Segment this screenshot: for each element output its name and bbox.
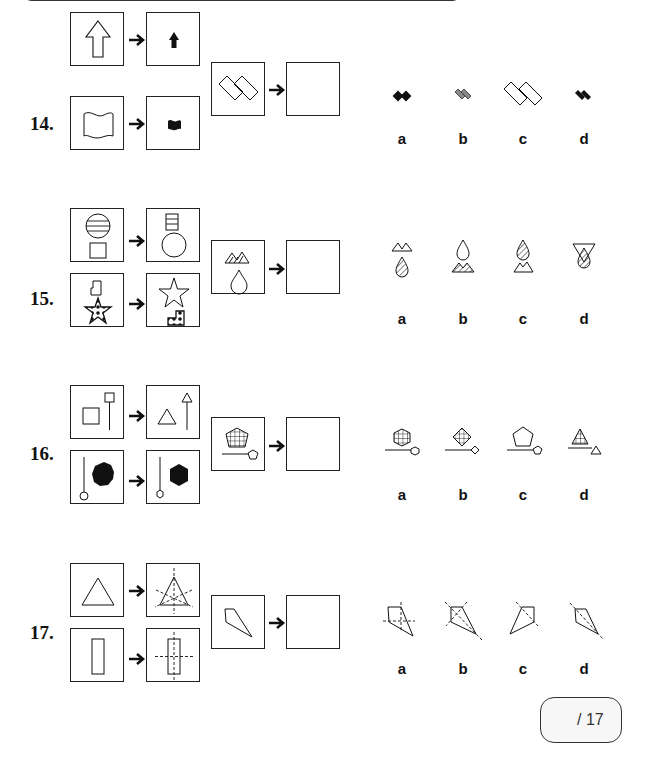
triangle-with-pin-icon bbox=[147, 386, 201, 440]
star-and-dotted-L-icon bbox=[147, 274, 201, 328]
example-output-square-circle bbox=[146, 208, 200, 262]
example-input-octagon-pin bbox=[70, 450, 124, 504]
black-rectangles-icon bbox=[562, 70, 612, 120]
option-d[interactable] bbox=[562, 420, 612, 470]
query-box bbox=[211, 417, 265, 471]
outline-arrow-icon bbox=[71, 13, 125, 67]
arrow-right-icon bbox=[268, 616, 286, 630]
answer-box-empty[interactable] bbox=[286, 595, 340, 649]
query-box bbox=[211, 240, 265, 294]
arrow-right-icon bbox=[268, 439, 286, 453]
answer-box-empty[interactable] bbox=[286, 417, 340, 471]
gridded-pentagon-with-pentagon-pin-icon bbox=[212, 418, 266, 472]
option-b[interactable] bbox=[441, 70, 491, 120]
inverted-triangle-with-striped-drop-icon bbox=[562, 238, 612, 288]
black-hexagon-with-hexagon-pin-icon bbox=[147, 451, 201, 505]
striped-square-and-circle-icon bbox=[147, 209, 201, 263]
outline-flag-icon bbox=[71, 97, 125, 151]
arrow-right-icon bbox=[128, 297, 146, 311]
option-label: d bbox=[574, 130, 594, 147]
option-label: a bbox=[392, 130, 412, 147]
top-frame bbox=[22, 0, 462, 1]
option-b[interactable] bbox=[441, 238, 491, 288]
option-c[interactable] bbox=[501, 420, 551, 470]
arrow-right-icon bbox=[128, 409, 146, 423]
option-label: a bbox=[392, 486, 412, 503]
square-with-pin-icon bbox=[71, 386, 125, 440]
option-a[interactable] bbox=[380, 420, 430, 470]
arrow-right-icon bbox=[128, 33, 146, 47]
triangle-icon bbox=[71, 564, 125, 618]
example-input-circle-square bbox=[70, 208, 124, 262]
arrow-right-icon bbox=[268, 83, 286, 97]
option-a[interactable] bbox=[380, 238, 430, 288]
question-number: 17. bbox=[30, 622, 54, 644]
query-box bbox=[211, 62, 265, 116]
arrow-right-icon bbox=[128, 652, 146, 666]
L-shape-and-dotted-star-icon bbox=[71, 274, 125, 328]
option-label: b bbox=[453, 486, 473, 503]
option-label: c bbox=[513, 660, 533, 677]
option-label: a bbox=[392, 310, 412, 327]
striped-drop-above-mountains-icon bbox=[501, 238, 551, 288]
answer-box-empty[interactable] bbox=[286, 62, 340, 116]
example-input-L-star bbox=[70, 273, 124, 327]
black-rectangles-icon bbox=[380, 70, 430, 120]
option-label: d bbox=[574, 660, 594, 677]
option-c[interactable] bbox=[501, 238, 551, 288]
option-label: a bbox=[392, 660, 412, 677]
option-b[interactable] bbox=[441, 598, 491, 648]
option-a[interactable] bbox=[380, 598, 430, 648]
kite-quadrilateral-icon bbox=[212, 596, 266, 650]
black-octagon-with-circle-pin-icon bbox=[71, 451, 125, 505]
mountains-and-drop-icon bbox=[212, 241, 266, 295]
grey-rectangles-icon bbox=[441, 70, 491, 120]
example-output-triangle-axes bbox=[146, 563, 200, 617]
example-output-black-arrow bbox=[146, 12, 200, 66]
arrow-right-icon bbox=[128, 117, 146, 131]
mountains-above-striped-drop-icon bbox=[380, 238, 430, 288]
option-label: c bbox=[513, 130, 533, 147]
rectangle-symmetry-axes-icon bbox=[147, 629, 201, 683]
kite-with-cross-axes-icon bbox=[380, 598, 430, 648]
kite-with-one-diagonal-axis-icon bbox=[562, 598, 612, 648]
example-output-star-L bbox=[146, 273, 200, 327]
score-box[interactable]: / 17 bbox=[540, 697, 622, 743]
question-number: 14. bbox=[30, 113, 54, 135]
option-label: b bbox=[453, 660, 473, 677]
arrow-right-icon bbox=[128, 584, 146, 598]
black-flag-icon bbox=[147, 97, 201, 151]
drop-above-striped-mountains-icon bbox=[441, 238, 491, 288]
query-box bbox=[211, 595, 265, 649]
score-label: / 17 bbox=[577, 711, 604, 729]
option-d[interactable] bbox=[562, 70, 612, 120]
option-d[interactable] bbox=[562, 238, 612, 288]
example-input-triangle bbox=[70, 563, 124, 617]
gridded-triangle-with-triangle-pin-icon bbox=[562, 420, 612, 470]
example-input-flag bbox=[70, 96, 124, 150]
option-b[interactable] bbox=[441, 420, 491, 470]
pentagon-with-pentagon-pin-icon bbox=[501, 420, 551, 470]
arrow-right-icon bbox=[268, 262, 286, 276]
option-a[interactable] bbox=[380, 70, 430, 120]
option-label: c bbox=[513, 310, 533, 327]
example-output-triangle-pin bbox=[146, 385, 200, 439]
example-input-rectangle bbox=[70, 628, 124, 682]
striped-circle-and-square-icon bbox=[71, 209, 125, 263]
option-label: c bbox=[513, 486, 533, 503]
question-number: 15. bbox=[30, 288, 54, 310]
gridded-diamond-with-diamond-pin-icon bbox=[441, 420, 491, 470]
option-label: d bbox=[574, 486, 594, 503]
overlapping-rectangles-icon bbox=[212, 63, 266, 117]
kite-with-two-diagonal-axes-icon bbox=[441, 598, 491, 648]
example-input-square-pin bbox=[70, 385, 124, 439]
black-arrow-icon bbox=[147, 13, 201, 67]
option-label: b bbox=[453, 310, 473, 327]
option-c[interactable] bbox=[501, 598, 551, 648]
gridded-hexagon-with-hexagon-pin-icon bbox=[380, 420, 430, 470]
arrow-right-icon bbox=[128, 234, 146, 248]
answer-box-empty[interactable] bbox=[286, 240, 340, 294]
option-c[interactable] bbox=[501, 70, 551, 120]
option-d[interactable] bbox=[562, 598, 612, 648]
example-input-up-arrow bbox=[70, 12, 124, 66]
